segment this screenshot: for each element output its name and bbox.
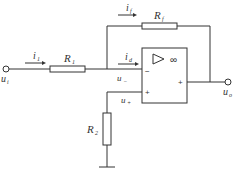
svg-text:u: u [1, 73, 6, 84]
svg-text:d: d [129, 57, 133, 63]
svg-text:−: − [123, 78, 127, 84]
i1-arrowhead-icon [42, 61, 46, 65]
svg-text:i: i [7, 79, 9, 85]
svg-text:i: i [33, 50, 36, 61]
svg-text:f: f [162, 16, 165, 22]
label-u-plus: u + [121, 95, 131, 106]
opamp-plus-sign: + [145, 88, 150, 97]
opamp-triangle-icon [153, 54, 164, 64]
svg-text:i: i [125, 51, 128, 62]
label-if: i f [126, 2, 133, 14]
svg-text:R: R [63, 52, 71, 64]
svg-text:2: 2 [95, 130, 98, 136]
id-arrowhead-icon [135, 62, 139, 66]
svg-text:R: R [86, 123, 94, 135]
label-uo: u o [223, 86, 232, 98]
opamp-minus-sign: − [145, 67, 150, 76]
label-i1: i 1 [33, 50, 40, 62]
svg-text:+: + [127, 100, 131, 106]
svg-text:1: 1 [72, 59, 75, 65]
label-ui: u i [1, 73, 9, 85]
label-u-minus: u − [117, 73, 127, 84]
circuit-diagram: ∞ − + + i 1 R 1 i f R f i d u − u + [0, 0, 235, 174]
resistor-r1 [50, 66, 85, 72]
label-r1: R 1 [63, 52, 75, 65]
resistor-r2 [103, 113, 111, 145]
input-terminal [3, 66, 9, 72]
label-r2: R 2 [86, 123, 98, 136]
if-arrowhead-icon [133, 13, 137, 17]
svg-text:f: f [130, 8, 133, 14]
svg-text:u: u [117, 73, 122, 83]
opamp-output-sign: + [178, 78, 183, 87]
label-rf: R f [153, 9, 165, 22]
svg-text:R: R [153, 9, 161, 21]
svg-text:1: 1 [37, 56, 40, 62]
svg-text:i: i [126, 2, 129, 13]
opamp-gain: ∞ [170, 54, 177, 65]
svg-text:u: u [223, 86, 228, 97]
svg-text:u: u [121, 95, 126, 105]
resistor-rf [142, 23, 177, 29]
output-terminal [225, 79, 231, 85]
label-id: i d [125, 51, 133, 63]
svg-text:o: o [229, 92, 232, 98]
